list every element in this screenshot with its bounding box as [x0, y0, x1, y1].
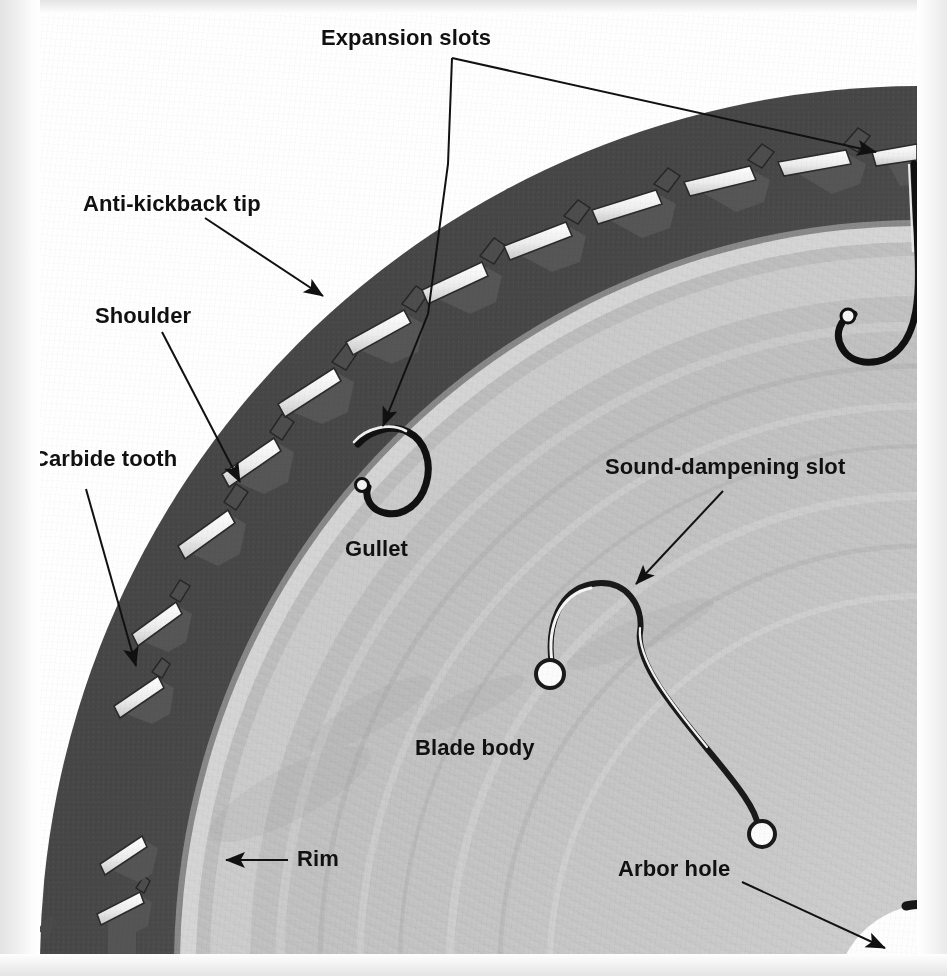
label-gullet: Gullet [345, 538, 408, 560]
page-edge-top [0, 0, 947, 14]
label-shoulder: Shoulder [95, 305, 191, 327]
page-edge-bottom [0, 954, 947, 976]
page-edge-right [917, 0, 947, 976]
label-carbide-tooth: Carbide tooth [40, 448, 177, 470]
label-anti-kickback-tip: Anti-kickback tip [83, 193, 261, 215]
label-blade-body: Blade body [415, 737, 535, 759]
label-arbor-hole: Arbor hole [618, 858, 730, 880]
label-expansion-slots: Expansion slots [321, 27, 491, 49]
page-edge-left [0, 0, 40, 976]
label-rim: Rim [297, 848, 339, 870]
page-background: Expansion slots Anti-kickback tip Should… [0, 0, 947, 976]
blade-illustration [40, 14, 917, 954]
label-sound-dampening-slot: Sound-dampening slot [605, 456, 845, 478]
saw-blade-photo: Expansion slots Anti-kickback tip Should… [40, 14, 917, 954]
